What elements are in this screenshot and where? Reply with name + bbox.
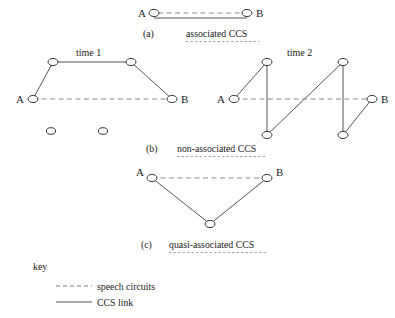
panel-b-time2: time 2 A B xyxy=(217,47,388,139)
panel-c-node-a xyxy=(147,174,157,181)
time2-ccs-link-n4-b xyxy=(343,99,372,135)
time2-label-a: A xyxy=(217,93,225,105)
panel-c-node-transit xyxy=(205,220,215,227)
time2-node-b xyxy=(367,95,377,102)
panel-c-ccs-link-a-transit xyxy=(152,178,210,224)
panel-a-node-a xyxy=(149,9,159,16)
panel-c-node-b xyxy=(262,174,272,181)
time1-node-b xyxy=(167,95,177,102)
time1-ccs-link-a-topleft xyxy=(33,62,53,99)
time2-node-transit-3 xyxy=(338,58,348,65)
time2-node-transit-1 xyxy=(262,58,272,65)
panel-b-time1: time 1 A B xyxy=(16,47,188,134)
panel-c-caption-label: (c) xyxy=(141,239,152,251)
legend: key speech circuits CCS link xyxy=(33,261,155,308)
legend-item-ccs-link: CCS link xyxy=(56,297,133,308)
panel-b-caption: (b) non-associated CCS xyxy=(146,143,266,157)
time1-node-a xyxy=(28,95,38,102)
time1-ccs-link-topright-b xyxy=(131,62,172,99)
time2-label-b: B xyxy=(381,93,388,105)
panel-c-caption-text: quasi-associated CCS xyxy=(169,239,254,250)
time1-label-a: A xyxy=(16,93,24,105)
panel-a-label-b: B xyxy=(256,7,263,19)
panel-a-caption-text: associated CCS xyxy=(186,28,247,39)
panel-b-caption-text: non-associated CCS xyxy=(177,143,256,154)
time1-node-transit-right xyxy=(126,58,136,65)
ccs-diagram: A B (a) associated CCS time 1 A xyxy=(0,0,395,318)
panel-a: A B (a) associated CCS xyxy=(138,7,263,42)
panel-c-label-b: B xyxy=(276,166,283,178)
legend-label-ccs-link: CCS link xyxy=(97,297,133,308)
panel-c-ccs-link-transit-b xyxy=(210,178,267,224)
time-1-label: time 1 xyxy=(76,47,101,58)
time1-node-idle-right xyxy=(98,128,107,135)
diagram-canvas: A B (a) associated CCS time 1 A xyxy=(0,0,395,318)
time2-ccs-link-a-n1 xyxy=(234,62,267,99)
time1-node-transit-left xyxy=(48,58,58,65)
time1-node-idle-left xyxy=(46,128,55,135)
legend-item-speech-circuits: speech circuits xyxy=(56,281,155,292)
time2-node-transit-2 xyxy=(262,131,272,138)
legend-label-speech-circuits: speech circuits xyxy=(97,281,155,292)
time2-node-transit-4 xyxy=(338,131,348,138)
legend-title: key xyxy=(33,261,47,272)
panel-b-caption-label: (b) xyxy=(146,143,157,155)
time1-label-b: B xyxy=(181,93,188,105)
panel-c-label-a: A xyxy=(136,166,144,178)
time2-node-a xyxy=(229,95,239,102)
panel-a-label-a: A xyxy=(138,7,146,19)
panel-a-caption-label: (a) xyxy=(143,28,154,40)
panel-c: A B (c) quasi-associated CCS xyxy=(136,166,283,253)
panel-a-node-b xyxy=(242,9,252,16)
time-2-label: time 2 xyxy=(287,47,312,58)
